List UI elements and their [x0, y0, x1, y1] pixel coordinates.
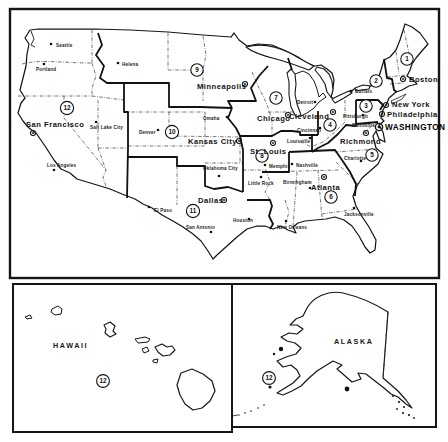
- district-1-number: 1: [405, 55, 409, 62]
- bank-city-label: St. Louis: [250, 147, 287, 156]
- reserve-bank-cities: Boston New York Philadelphia Cleveland R…: [26, 75, 438, 205]
- branch-city-cincinnati: Cincinnati: [297, 127, 321, 133]
- bank-city-chicago: Chicago: [257, 113, 291, 124]
- district-4-number: 4: [328, 121, 332, 128]
- capital-city-washington: WASHINGTON: [375, 123, 445, 132]
- branch-city-label: Portland: [36, 67, 56, 72]
- district-1: 1: [401, 53, 413, 65]
- branch-city-label: Cincinnati: [297, 128, 321, 133]
- branch-city-label: Denver: [139, 130, 156, 135]
- branch-city-label: Pittsburgh: [343, 114, 368, 119]
- branch-city-pittsburgh: Pittsburgh: [343, 114, 368, 119]
- district-6-number: 6: [329, 193, 333, 200]
- alaska-outline: [277, 292, 412, 408]
- alaska-inset: ALASKA 12: [232, 292, 415, 419]
- hawaii-inset-border: [13, 284, 232, 432]
- branch-city-memphis: Memphis: [264, 164, 291, 169]
- bank-city-st-louis: St. Louis: [250, 141, 287, 157]
- district-11: 11: [186, 204, 199, 217]
- district-3: 3: [360, 100, 372, 112]
- branch-city-charlotte: Charlotte: [344, 156, 366, 162]
- district-12: 12: [60, 101, 73, 114]
- branch-city-label: New Orleans: [277, 225, 307, 230]
- district-12-number: 12: [63, 104, 71, 111]
- district-5: 5: [366, 149, 378, 161]
- branch-city-label: Charlotte: [344, 156, 366, 161]
- federal-reserve-districts-map: 1 2 3 4 5 6 7 8 9 10 11 12 Boston New Yo…: [0, 0, 448, 442]
- branch-city-el-paso: El Paso: [148, 206, 172, 213]
- branch-city-birmingham: Birmingham: [283, 180, 312, 189]
- puget-sound: [31, 31, 35, 47]
- district-3-number: 3: [364, 102, 368, 109]
- bank-city-label: Kansas City: [188, 137, 237, 146]
- federal-reserve-districts-map-page: 1 2 3 4 5 6 7 8 9 10 11 12 Boston New Yo…: [0, 0, 448, 442]
- mainland-map: 1 2 3 4 5 6 7 8 9 10 11 12 Boston New Yo…: [18, 24, 445, 259]
- hawaii-district-number: 12: [99, 377, 107, 384]
- branch-city-label: Little Rock: [248, 181, 274, 186]
- lake-superior: [246, 45, 314, 70]
- branch-city-label: Jacksonville: [344, 212, 374, 217]
- branch-city-denver: Denver: [139, 129, 159, 135]
- branch-city-label: Omaha: [203, 116, 220, 121]
- branch-city-label: Louisville: [287, 139, 310, 144]
- lake-michigan: [287, 69, 301, 117]
- branch-city-salt-lake-city: Salt Lake City: [90, 121, 123, 130]
- hawaii-islands: [25, 306, 215, 410]
- district-11-number: 11: [190, 207, 197, 214]
- branch-city-omaha: Omaha: [203, 116, 228, 121]
- branch-city-label: Helena: [122, 62, 139, 67]
- branch-city-jacksonville: Jacksonville: [344, 207, 374, 217]
- bank-city-label: Boston: [409, 75, 438, 84]
- bank-city-atlanta: Atlanta: [311, 175, 341, 193]
- district-9: 9: [191, 64, 203, 76]
- branch-city-label: San Antonio: [186, 225, 215, 230]
- branch-city-baltimore: Baltimore: [352, 122, 375, 128]
- bank-city-minneapolis: Minneapolis: [197, 82, 248, 92]
- bank-city-label: Minneapolis: [197, 82, 246, 91]
- district-6: 6: [325, 191, 337, 203]
- alaska-label: ALASKA: [334, 337, 374, 346]
- branch-city-label: Buffalo: [355, 89, 372, 94]
- alaska-district-12: 12: [263, 372, 276, 385]
- branch-city-portland: Portland: [36, 63, 56, 72]
- bank-city-san-francisco: San Francisco: [26, 120, 84, 136]
- district-7: 7: [270, 92, 282, 104]
- branch-city-little-rock: Little Rock: [248, 176, 274, 186]
- branch-city-seattle: Seattle: [50, 43, 73, 48]
- branch-city-label: El Paso: [154, 208, 172, 213]
- bank-city-label: New York: [392, 100, 430, 109]
- district-10-number: 10: [168, 128, 176, 135]
- bank-city-label: Richmond: [340, 137, 381, 146]
- bank-city-new-york: New York: [384, 100, 431, 109]
- district-10: 10: [165, 125, 178, 138]
- capital-marker-dot: [378, 126, 381, 129]
- alaska-district-number: 12: [265, 374, 273, 381]
- branch-city-label: Detroit: [297, 100, 313, 105]
- branch-city-nashville: Nashville: [291, 163, 319, 168]
- branch-city-label: Oklahoma City: [203, 166, 238, 171]
- branch-city-label: Nashville: [296, 163, 318, 168]
- branch-city-label: Memphis: [269, 164, 291, 169]
- district-5-number: 5: [370, 151, 374, 158]
- bank-city-label: Atlanta: [311, 183, 341, 192]
- bank-city-label: Chicago: [257, 114, 290, 123]
- bank-city-kansas-city: Kansas City: [188, 137, 242, 146]
- branch-city-houston: Houston: [233, 218, 253, 223]
- branch-city-label: Baltimore: [352, 123, 375, 128]
- district-numbers: 1 2 3 4 5 6 7 8 9 10 11 12: [60, 53, 413, 218]
- branch-city-label: Seattle: [56, 43, 73, 48]
- bank-city-label: Philadelphia: [387, 110, 438, 119]
- branch-city-louisville: Louisville: [287, 137, 311, 144]
- capital-label: WASHINGTON: [385, 123, 445, 132]
- branch-city-helena: Helena: [117, 62, 139, 67]
- branch-city-label: Salt Lake City: [90, 125, 123, 130]
- district-2-number: 2: [374, 77, 378, 84]
- district-7-number: 7: [274, 94, 278, 101]
- bank-city-boston: Boston: [401, 75, 439, 84]
- hawaii-inset: HAWAII 12: [25, 306, 215, 410]
- branch-city-label: Los Angeles: [47, 163, 77, 168]
- branch-city-label: Birmingham: [283, 180, 312, 185]
- branch-city-label: Houston: [233, 218, 253, 223]
- hawaii-label: HAWAII: [53, 341, 88, 350]
- bank-city-philadelphia: Philadelphia: [380, 110, 439, 119]
